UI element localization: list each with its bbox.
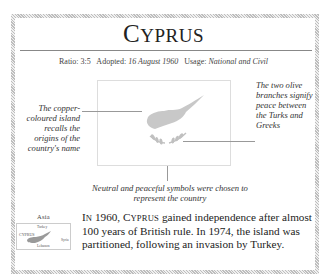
adopted-value: 16 August 1960 [128,57,178,66]
usage-value: National and Civil [208,57,268,66]
inset-region-label: Asia [16,213,71,220]
inset-locator-map: Turkey CYPRUS Syria Lebanon [16,223,71,250]
country-description: IN 1960, CYPRUS gained independence afte… [82,211,320,252]
leader-line-branches [183,141,255,142]
leader-line-island [82,111,142,112]
cyprus-silhouette-icon [17,224,70,249]
ratio-value: 3:5 [81,57,91,66]
flag-emblem-icon [98,81,230,165]
cyprus-flag [97,80,231,166]
flag-meta: Ratio: 3:5 Adopted: 16 August 1960 Usage… [0,57,327,66]
page-title: CYPRUS [0,20,327,48]
leader-line-bottom [167,166,168,181]
title-rule [20,50,312,51]
annotation-island: The copper-coloured island recalls the o… [20,103,80,153]
annotation-branches: The two olive branches signify peace bet… [256,80,316,130]
annotation-symbols: Neutral and peaceful symbols were chosen… [90,183,250,203]
